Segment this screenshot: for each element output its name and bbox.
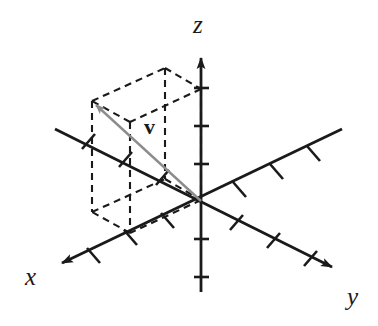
x-axis-label: x	[25, 264, 36, 289]
y-axis-label: y	[347, 284, 358, 309]
tick-mark	[270, 164, 283, 179]
vector-v-label: v	[144, 116, 155, 138]
box-top-face-edge-back-right	[165, 68, 201, 89]
tick-mark	[307, 146, 320, 161]
box-bottom-face-edge-left-back	[92, 179, 165, 212]
coordinate-axes-figure	[0, 0, 378, 326]
z-axis-label: z	[193, 12, 203, 37]
tick-mark	[233, 182, 246, 197]
tick-mark	[87, 248, 100, 263]
axis-lines-group	[55, 58, 342, 292]
box-top-face-edge-left-back	[92, 68, 165, 101]
